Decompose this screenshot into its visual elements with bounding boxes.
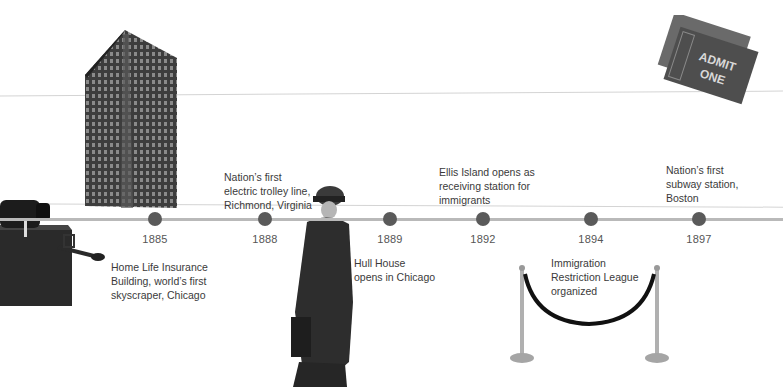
woman-portrait-image — [285, 182, 355, 389]
event-label-line: Hull House — [354, 256, 435, 270]
event-label-line: Restriction League — [551, 270, 639, 284]
event-label-line: Nation’s first — [224, 170, 312, 184]
event-label-1888: Nation’s first electric trolley line, Ri… — [224, 170, 312, 212]
year-label-1889: 1889 — [377, 233, 402, 245]
timeline-dot-1892 — [476, 212, 490, 226]
event-label-line: immigrants — [439, 193, 535, 207]
timeline-dot-1897 — [692, 212, 706, 226]
event-label-line: Ellis Island opens as — [439, 165, 535, 179]
event-label-1885: Home Life Insurance Building, world’s fi… — [111, 260, 208, 302]
timeline-dot-1888 — [258, 212, 272, 226]
year-label-1894: 1894 — [578, 233, 603, 245]
ticket-image: ADMIT ONE — [652, 15, 764, 115]
event-label-line: opens in Chicago — [354, 270, 435, 284]
timeline-dot-1885 — [148, 212, 162, 226]
phonograph-image — [0, 195, 106, 313]
event-label-line: Richmond, Virginia — [224, 198, 312, 212]
event-label-1889: Hull House opens in Chicago — [354, 256, 435, 284]
event-label-1897: Nation’s first subway station, Boston — [666, 163, 738, 205]
event-label-line: Building, world’s first — [111, 274, 208, 288]
year-label-1892: 1892 — [470, 233, 495, 245]
timeline-dot-1894 — [584, 212, 598, 226]
event-label-1894: Immigration Restriction League organized — [551, 256, 639, 298]
event-label-line: Immigration — [551, 256, 639, 270]
event-label-line: electric trolley line, — [224, 184, 312, 198]
event-label-line: organized — [551, 284, 639, 298]
timeline-dot-1889 — [383, 212, 397, 226]
year-label-1888: 1888 — [252, 233, 277, 245]
event-label-line: Boston — [666, 191, 738, 205]
skyscraper-image — [85, 30, 177, 210]
event-label-line: receiving station for — [439, 179, 535, 193]
event-label-line: Home Life Insurance — [111, 260, 208, 274]
event-label-1892: Ellis Island opens as receiving station … — [439, 165, 535, 207]
event-label-line: subway station, — [666, 177, 738, 191]
year-label-1885: 1885 — [142, 233, 167, 245]
year-label-1897: 1897 — [686, 233, 711, 245]
event-label-line: skyscraper, Chicago — [111, 288, 208, 302]
event-label-line: Nation’s first — [666, 163, 738, 177]
